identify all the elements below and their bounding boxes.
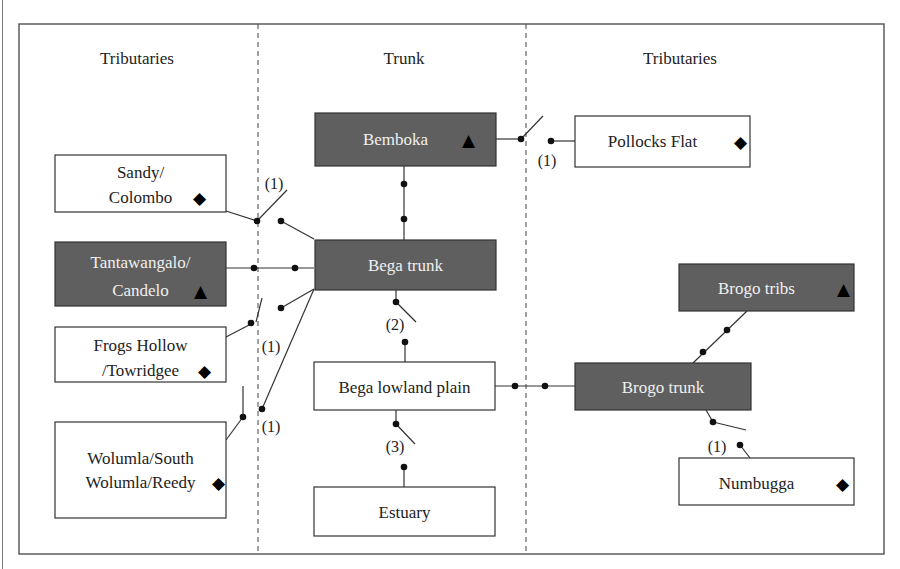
dot [393,299,400,306]
diamond-icon: ◆ [198,361,212,381]
diamond-icon: ◆ [193,188,207,208]
switch-label-2: (2) [386,316,405,334]
dot [248,320,255,327]
edge-frogs [226,324,251,337]
node-label: Bega trunk [368,256,444,275]
dot [254,218,261,225]
switch-label-numbugga: (1) [708,438,727,456]
dot [401,181,408,188]
node-label: Sandy/ [117,163,165,182]
dot [402,339,409,346]
dot [518,136,525,143]
switch-label-sandy: (1) [265,175,284,193]
node-label: Candelo [112,281,169,300]
node-brogo-trunk: Brogo trunk [575,363,751,410]
dot [401,216,408,223]
dot [278,218,285,225]
dot [259,406,266,413]
diamond-icon: ◆ [212,473,226,493]
dot [251,265,258,272]
node-label: Colombo [109,188,172,207]
dot [240,414,247,421]
node-label: Wolumla/South [87,449,194,468]
node-label: Wolumla/Reedy [85,473,196,492]
node-bega-trunk: Bega trunk [315,240,496,290]
connectivity-diagram: Tributaries Trunk Tributaries [0,0,900,569]
connection-lines [226,116,750,487]
node-box [55,422,226,518]
dot [710,419,717,426]
node-label: Bemboka [363,130,429,149]
node-frogs-hollow: Frogs Hollow/Towridgee◆ [55,327,226,382]
node-tantawangalo-candelo: Tantawangalo/Candelo▲ [55,242,226,306]
node-label: Tantawangalo/ [91,253,191,272]
dot [724,327,731,334]
node-wolumla: Wolumla/SouthWolumla/Reedy◆ [55,422,226,518]
column-header-trunk: Trunk [384,49,425,68]
edge-sandy [226,211,257,221]
switch-label-frogs: (1) [262,338,281,356]
edge-wolumla [226,417,243,440]
switch-label-wolumla: (1) [262,418,281,436]
node-label: Numbugga [719,474,795,493]
triangle-icon: ▲ [837,279,851,299]
switch-arm-bemboka-pollocks [521,116,543,139]
dot [548,138,555,145]
triangle-icon: ▲ [194,281,208,301]
switch-arm-numbugga [713,422,746,430]
node-label: Frogs Hollow [94,336,189,355]
switch-label-3: (3) [386,438,405,456]
dot [737,442,744,449]
node-numbugga: Numbugga◆ [679,458,854,505]
node-label: /Towridgee [102,361,179,380]
edge-sandy-trunk-stub [281,221,314,239]
dot [292,265,299,272]
triangle-icon: ▲ [462,130,476,150]
node-label: Estuary [379,503,431,522]
column-header-right-tributaries: Tributaries [643,49,717,68]
edge-frogs-trunk-stub [281,289,314,308]
dot [512,383,519,390]
node-brogo-tribs: Brogo tribs▲ [679,264,854,311]
dot [700,349,707,356]
node-pollocks-flat: Pollocks Flat◆ [575,116,750,167]
junction-dots [240,136,744,471]
dot [401,464,408,471]
switch-arm-frogs [256,298,262,322]
node-sandy-colombo: Sandy/Colombo◆ [55,155,226,212]
node-label: Brogo tribs [718,279,795,298]
node-estuary: Estuary [314,487,495,536]
dot [542,383,549,390]
dot [278,305,285,312]
node-label: Bega lowland plain [338,378,471,397]
nodes: Bemboka▲Pollocks Flat◆Sandy/Colombo◆Tant… [55,113,854,536]
node-label: Brogo trunk [622,378,705,397]
switch-arm-sandy [257,190,287,221]
node-bega-lowland-plain: Bega lowland plain [314,362,495,410]
diamond-icon: ◆ [836,474,850,494]
dot [393,421,400,428]
switch-label-pollocks: (1) [538,152,557,170]
node-bemboka: Bemboka▲ [315,113,496,166]
column-header-left-tributaries: Tributaries [100,49,174,68]
node-label: Pollocks Flat [608,132,698,151]
diamond-icon: ◆ [734,132,748,152]
edge-brogo-tribs-trunk [693,311,747,363]
